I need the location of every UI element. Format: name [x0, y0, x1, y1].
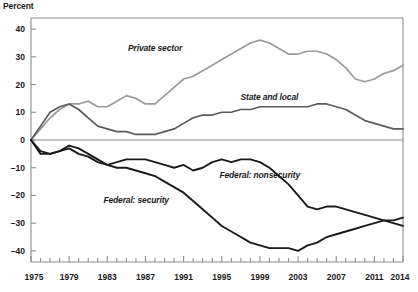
series-line-private-sector	[31, 40, 403, 140]
chart-figure: Percent 403020100–10–20–30–40 1975197919…	[0, 0, 418, 292]
y-tick-label: –10	[11, 163, 25, 173]
series-label-state-and-local: State and local	[240, 92, 298, 102]
y-tick-label: 0	[20, 135, 25, 145]
series-label-federal-security: Federal: security	[103, 195, 168, 205]
y-tick-label: –30	[11, 218, 25, 228]
x-tick-label: 2014	[391, 272, 410, 282]
axis-ticks	[31, 29, 403, 262]
x-tick-label: 1991	[174, 272, 193, 282]
y-tick-label: 40	[16, 24, 25, 34]
series-label-private-sector: Private sector	[128, 43, 182, 53]
y-tick-label: 30	[16, 52, 25, 62]
x-tick-label: 2007	[327, 272, 346, 282]
y-tick-label: 20	[16, 80, 25, 90]
y-tick-label: –40	[11, 246, 25, 256]
x-tick-label: 1979	[60, 272, 79, 282]
plot-canvas	[0, 0, 418, 292]
x-tick-label: 1987	[136, 272, 155, 282]
y-tick-label: 10	[16, 107, 25, 117]
x-tick-label: 2011	[365, 272, 383, 282]
x-tick-label: 1975	[25, 272, 44, 282]
x-tick-label: 1995	[212, 272, 231, 282]
x-tick-label: 1983	[98, 272, 117, 282]
series-label-federal-nonsecurity: Federal: nonsecurity	[219, 170, 300, 180]
x-tick-label: 2003	[289, 272, 308, 282]
data-series-lines	[31, 40, 403, 251]
x-tick-label: 1999	[250, 272, 269, 282]
y-tick-label: –20	[11, 190, 25, 200]
series-line-state-and-local	[31, 104, 403, 140]
